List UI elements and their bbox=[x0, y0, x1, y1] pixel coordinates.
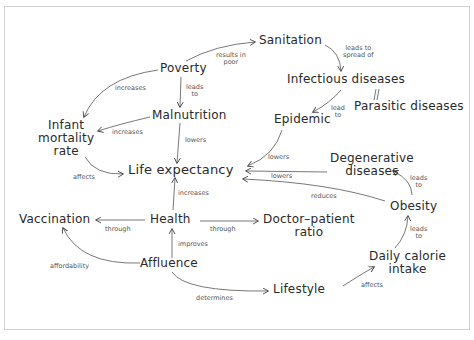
edge-affluence-lifestyle bbox=[172, 272, 268, 291]
node-malnutrition: Malnutrition bbox=[152, 109, 227, 122]
label-infant-life: affects bbox=[73, 174, 95, 181]
node-epidemic: Epidemic bbox=[274, 113, 331, 126]
edge-affluence-vaccination bbox=[63, 228, 140, 263]
label-health-vaccination: through bbox=[105, 226, 131, 233]
node-degenerative-line2: diseases bbox=[330, 165, 414, 178]
label-line: to bbox=[410, 233, 427, 240]
label-health-life: increases bbox=[178, 190, 209, 197]
node-parasitic-diseases: Parasitic diseases bbox=[354, 100, 464, 113]
label-line: to bbox=[186, 91, 203, 98]
edge-sanitation-infectious bbox=[325, 45, 341, 71]
label-line: to bbox=[331, 112, 345, 119]
node-life-expectancy: Life expectancy bbox=[128, 163, 234, 176]
edge-health-life bbox=[173, 178, 175, 210]
node-degenerative-diseases: Degenerative diseases bbox=[330, 152, 414, 178]
label-line: spread of bbox=[343, 52, 373, 59]
node-infant-mortality-rate: Infant mortality rate bbox=[38, 119, 94, 158]
label-epidemic-life: lowers bbox=[268, 154, 289, 161]
edge-poverty-malnutrition bbox=[180, 77, 181, 107]
label-line: to bbox=[410, 182, 427, 189]
node-daily-calorie-intake: Daily calorie intake bbox=[369, 250, 446, 276]
label-poverty-infant: increases bbox=[115, 85, 146, 92]
label-calorie-obesity: leads to bbox=[410, 226, 427, 240]
label-infectious-epidemic: lead to bbox=[331, 105, 345, 119]
node-vaccination: Vaccination bbox=[19, 213, 90, 226]
node-infectious-diseases: Infectious diseases bbox=[287, 73, 405, 86]
label-poverty-sanitation: results in poor bbox=[216, 52, 246, 66]
label-affluence-health: improves bbox=[178, 241, 208, 248]
node-infant-line3: rate bbox=[38, 145, 94, 158]
edge-poverty-infant bbox=[84, 70, 158, 117]
label-degenerative-life: lowers bbox=[271, 173, 292, 180]
label-affluence-vaccination: affordability bbox=[50, 263, 89, 270]
edge-malnutrition-life bbox=[177, 123, 180, 163]
label-malnutrition-life: lowers bbox=[185, 137, 206, 144]
node-affluence: Affluence bbox=[140, 257, 198, 270]
node-calorie-line2: intake bbox=[369, 263, 446, 276]
label-affluence-lifestyle: determines bbox=[196, 295, 233, 302]
label-obesity-life: reduces bbox=[311, 193, 337, 200]
label-poverty-malnutrition: leads to bbox=[186, 84, 203, 98]
node-doctor-line2: ratio bbox=[263, 226, 355, 239]
node-obesity: Obesity bbox=[390, 200, 437, 213]
label-line: poor bbox=[216, 59, 246, 66]
label-health-doctor: through bbox=[210, 226, 236, 233]
edge-calorie-obesity bbox=[395, 216, 408, 248]
edge-infant-life bbox=[85, 157, 123, 174]
label-lifestyle-calorie: affects bbox=[361, 282, 383, 289]
node-poverty: Poverty bbox=[160, 62, 207, 75]
node-health: Health bbox=[150, 213, 191, 226]
label-sanitation-infectious: leads to spread of bbox=[343, 45, 373, 59]
label-obesity-degenerative: leads to bbox=[410, 175, 427, 189]
node-lifestyle: Lifestyle bbox=[273, 283, 325, 296]
node-sanitation: Sanitation bbox=[259, 34, 322, 47]
node-doctor-patient-ratio: Doctor–patient ratio bbox=[263, 213, 355, 239]
label-malnutrition-infant: increases bbox=[112, 129, 143, 136]
